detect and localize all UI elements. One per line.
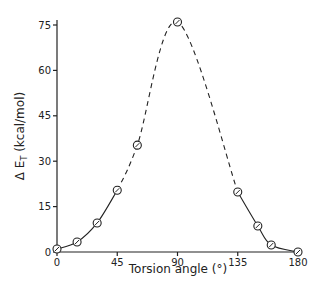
dashed-curve <box>117 22 238 193</box>
x-tick-label: 135 <box>228 257 247 268</box>
axes <box>57 20 300 252</box>
x-tick-label: 0 <box>54 257 60 268</box>
chart: 01530456075 04590135180 Torsion angle (°… <box>0 0 321 293</box>
data-point <box>73 238 81 246</box>
data-point <box>254 222 262 230</box>
y-tick-label: 45 <box>38 110 51 121</box>
x-tick-label: 180 <box>288 257 307 268</box>
y-ticks: 01530456075 <box>38 20 57 258</box>
data-point <box>93 219 101 227</box>
data-point <box>234 188 242 196</box>
data-point <box>267 241 275 249</box>
curves <box>57 22 298 252</box>
y-tick-label: 30 <box>38 156 51 167</box>
data-point <box>174 18 182 26</box>
y-tick-label: 0 <box>45 247 51 258</box>
y-axis-label: Δ ET (kcal/mol) <box>13 92 29 180</box>
data-point <box>53 245 61 253</box>
y-tick-label: 75 <box>38 20 51 31</box>
y-tick-label: 15 <box>38 201 51 212</box>
data-point <box>133 141 141 149</box>
x-axis-label: Torsion angle (°) <box>128 262 227 276</box>
y-tick-label: 60 <box>38 65 51 76</box>
solid-curve <box>57 190 117 249</box>
data-point <box>113 186 121 194</box>
x-tick-label: 45 <box>111 257 124 268</box>
data-markers <box>53 18 302 256</box>
data-point <box>294 248 302 256</box>
